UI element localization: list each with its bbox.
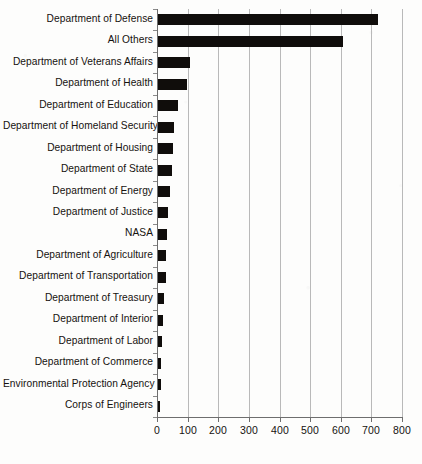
category-label: Department of Health bbox=[3, 77, 153, 88]
bar bbox=[157, 250, 166, 261]
bar-chart: Department of DefenseAll OthersDepartmen… bbox=[0, 0, 422, 464]
category-label: Department of State bbox=[3, 163, 153, 174]
x-axis-tick-700 bbox=[371, 418, 372, 422]
category-label: NASA bbox=[3, 227, 153, 238]
category-label: Corps of Engineers bbox=[3, 399, 153, 410]
bar bbox=[157, 122, 174, 133]
category-label: Department of Justice bbox=[3, 206, 153, 217]
gridline-100 bbox=[188, 9, 189, 417]
bar bbox=[157, 14, 378, 25]
bar bbox=[157, 143, 173, 154]
category-label: Department of Veterans Affairs bbox=[3, 56, 153, 67]
bar bbox=[157, 36, 343, 47]
category-label: Department of Agriculture bbox=[3, 249, 153, 260]
gridline-200 bbox=[218, 9, 219, 417]
category-label: Department of Homeland Security bbox=[3, 120, 153, 131]
category-label: Environmental Protection Agency bbox=[3, 378, 153, 389]
category-label: Department of Energy bbox=[3, 185, 153, 196]
category-label: Department of Interior bbox=[3, 313, 153, 324]
category-label: Department of Labor bbox=[3, 335, 153, 346]
x-axis-tick-200 bbox=[218, 418, 219, 422]
gridline-800 bbox=[402, 9, 403, 417]
category-label: Department of Commerce bbox=[3, 356, 153, 367]
x-axis-tick-label: 800 bbox=[382, 424, 422, 436]
category-label: Department of Treasury bbox=[3, 292, 153, 303]
gridline-300 bbox=[249, 9, 250, 417]
bar bbox=[157, 272, 166, 283]
category-label-column: Department of DefenseAll OthersDepartmen… bbox=[0, 0, 153, 464]
bar bbox=[157, 229, 167, 240]
category-label: All Others bbox=[3, 34, 153, 45]
x-axis-tick-100 bbox=[188, 418, 189, 422]
bar bbox=[157, 57, 190, 68]
bar bbox=[157, 100, 178, 111]
bar bbox=[157, 207, 168, 218]
bar bbox=[157, 165, 172, 176]
x-axis-tick-800 bbox=[402, 418, 403, 422]
bar bbox=[157, 79, 187, 90]
category-label: Department of Transportation bbox=[3, 270, 153, 281]
plot-area bbox=[157, 9, 402, 417]
category-label: Department of Housing bbox=[3, 142, 153, 153]
x-axis-tick-300 bbox=[249, 418, 250, 422]
x-axis-tick-0 bbox=[157, 418, 158, 422]
gridline-400 bbox=[280, 9, 281, 417]
x-axis-tick-500 bbox=[310, 418, 311, 422]
x-axis-tick-600 bbox=[341, 418, 342, 422]
y-axis-line bbox=[157, 9, 158, 418]
gridline-500 bbox=[310, 9, 311, 417]
x-axis-tick-400 bbox=[280, 418, 281, 422]
category-label: Department of Education bbox=[3, 99, 153, 110]
bar bbox=[157, 293, 164, 304]
bar bbox=[157, 186, 170, 197]
gridline-700 bbox=[371, 9, 372, 417]
gridline-600 bbox=[341, 9, 342, 417]
category-label: Department of Defense bbox=[3, 13, 153, 24]
